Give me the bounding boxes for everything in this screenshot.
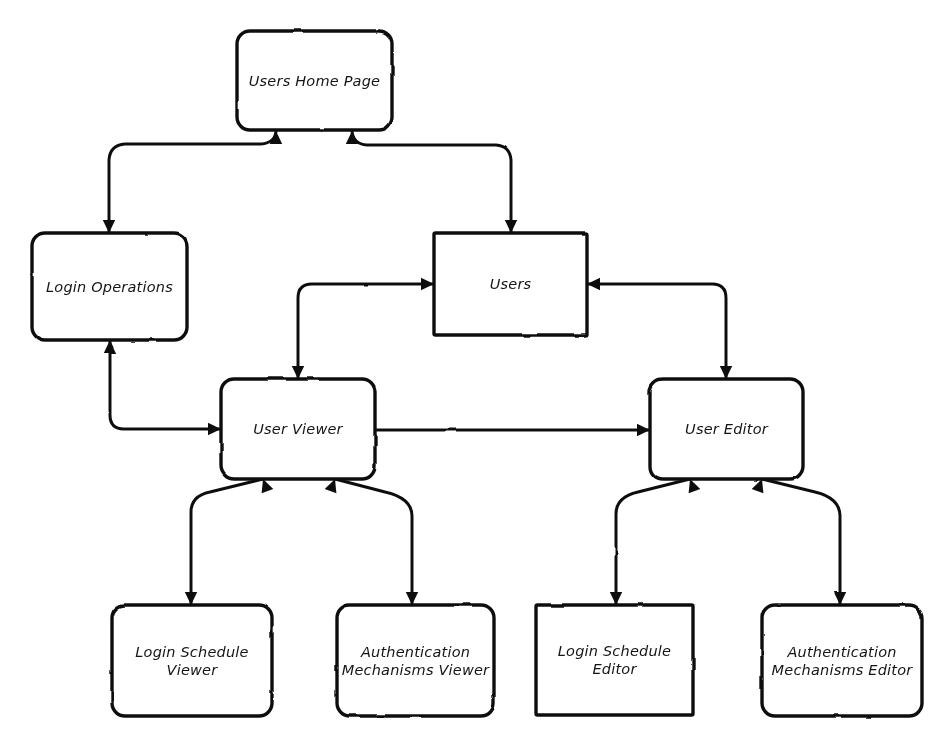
arrowhead [720,366,732,379]
edge-users-to-user-editor [587,278,732,379]
node-shape[interactable] [536,605,693,715]
node-user-viewer[interactable]: User Viewer [221,379,375,479]
arrowhead [637,424,650,436]
node-label: User Editor [685,421,769,437]
node-shape[interactable] [112,605,272,716]
node-authentication-mechanisms-editor[interactable]: AuthenticationMechanisms Editor [762,605,922,716]
arrowhead [104,340,116,353]
arrowhead [406,592,418,605]
node-label: Login Schedule [558,643,671,659]
edge-line [109,131,276,233]
node-label: Mechanisms Editor [772,662,914,678]
node-users[interactable]: Users [434,233,587,335]
node-label: Editor [592,661,637,677]
edge-line [587,284,726,379]
node-label: Authentication [786,644,896,660]
edge-line [191,479,263,605]
node-label: Login Schedule [135,644,248,660]
edge-user-viewer-to-login-schedule-viewer [185,477,273,605]
arrowhead [270,131,282,144]
node-label: Users [490,276,532,292]
arrowhead [421,278,434,290]
arrowhead [587,278,600,290]
arrowhead [208,423,221,435]
edge-line [298,284,434,379]
node-label: User Viewer [253,421,343,437]
node-label: Authentication [360,644,470,660]
node-shape[interactable] [337,605,494,716]
node-label: Users Home Page [249,73,380,89]
edge-users-to-user-viewer [292,278,434,379]
edge-users-home-page-to-users [346,131,517,233]
edge-line [616,479,690,605]
arrowhead [292,366,304,379]
node-label: Mechanisms Viewer [342,662,490,678]
diagram-canvas: Users Home PageLogin OperationsUsersUser… [0,0,940,743]
nodes-layer: Users Home PageLogin OperationsUsersUser… [32,31,922,716]
node-users-home-page[interactable]: Users Home Page [237,31,392,130]
edge-line [762,479,840,605]
edge-line [110,340,221,429]
node-shape[interactable] [762,605,922,716]
node-label: Viewer [167,662,219,678]
node-login-schedule-editor[interactable]: Login ScheduleEditor [536,605,693,715]
edge-user-editor-to-login-schedule-editor [610,477,700,605]
edge-users-home-page-to-login-operations [103,131,282,233]
arrowhead [103,220,115,233]
edge-line [335,479,412,605]
arrowhead [505,220,517,233]
edge-line [352,131,511,233]
edge-login-operations-to-user-viewer [104,340,221,435]
node-user-editor[interactable]: User Editor [650,379,803,479]
edge-user-viewer-to-user-editor [375,424,650,436]
node-login-schedule-viewer[interactable]: Login ScheduleViewer [112,605,272,716]
arrowhead [610,592,622,605]
node-authentication-mechanisms-viewer[interactable]: AuthenticationMechanisms Viewer [337,605,494,716]
arrowhead [185,592,197,605]
diagram-svg: Users Home PageLogin OperationsUsersUser… [0,0,940,743]
node-login-operations[interactable]: Login Operations [32,233,187,340]
arrowhead [834,592,846,605]
arrowhead [346,131,358,144]
edge-user-editor-to-authentication-mechanisms-editor [752,477,846,605]
edge-user-viewer-to-authentication-mechanisms-viewer [325,477,418,605]
node-label: Login Operations [46,279,173,295]
edges-layer [103,131,846,605]
